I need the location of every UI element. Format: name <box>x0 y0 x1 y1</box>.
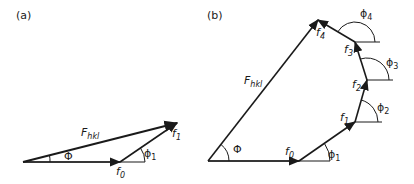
panel-b: (b) Fhkl f0 f1 f2 f3 f4 Φ ϕ1 ϕ2 ϕ3 ϕ4 <box>207 7 398 163</box>
label-f1: f1 <box>340 111 349 126</box>
label-f0: f0 <box>285 145 294 160</box>
vector-diagram: (a) Fhkl f1 f0 Φ ϕ1 (b) <box>0 0 414 184</box>
panel-a-label: (a) <box>16 9 31 22</box>
vector-f3 <box>355 42 367 80</box>
vector-f1 <box>299 122 355 161</box>
label-phi2: ϕ2 <box>377 101 389 116</box>
angle-phi4-arc <box>338 22 375 42</box>
angle-Phi-arc <box>221 145 229 162</box>
label-phi1: ϕ1 <box>328 148 340 163</box>
panel-b-label: (b) <box>207 9 223 22</box>
label-f0: f0 <box>116 165 125 180</box>
label-phi3: ϕ3 <box>386 56 398 71</box>
label-F-hkl: Fhkl <box>81 126 100 141</box>
label-Phi: Φ <box>233 143 242 156</box>
label-phi1: ϕ1 <box>144 147 156 162</box>
label-f4: f4 <box>316 26 325 41</box>
label-phi4: ϕ4 <box>360 7 372 22</box>
angle-phi2-arc <box>361 100 378 122</box>
angle-phi3-arc <box>360 58 389 80</box>
label-f1: f1 <box>172 127 181 142</box>
label-f3: f3 <box>344 43 353 58</box>
vector-F-hkl <box>208 20 318 161</box>
panel-a: (a) Fhkl f1 f0 Φ ϕ1 <box>16 9 181 180</box>
label-F-hkl: Fhkl <box>244 74 263 89</box>
angle-Phi-arc <box>50 156 51 163</box>
label-Phi: Φ <box>64 150 73 163</box>
label-f2: f2 <box>352 78 361 93</box>
